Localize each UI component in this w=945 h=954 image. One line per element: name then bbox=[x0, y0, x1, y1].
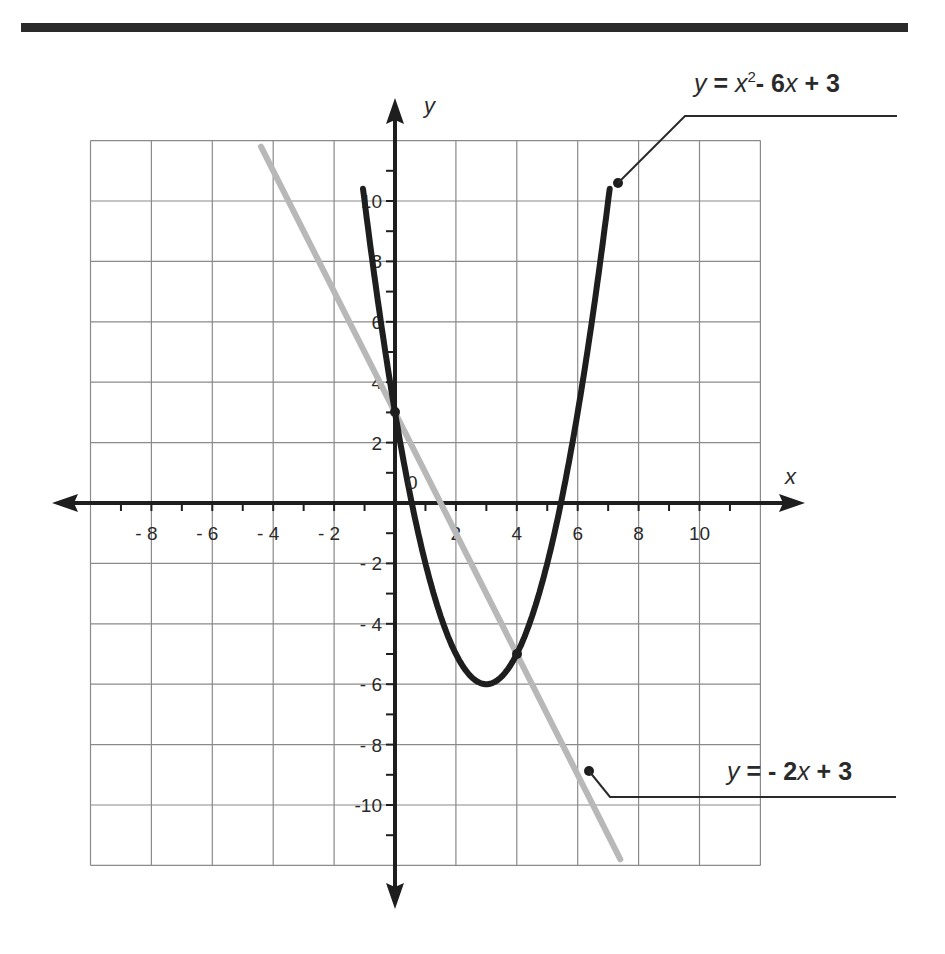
line-callout: y = - 2x + 3 bbox=[584, 757, 896, 797]
y-tick-label: - 4 bbox=[360, 614, 383, 635]
line-equation-label: y = - 2x + 3 bbox=[725, 757, 852, 785]
y-tick-label: -10 bbox=[355, 795, 382, 816]
x-tick-label: - 4 bbox=[257, 523, 280, 544]
x-tick-label: - 6 bbox=[196, 523, 218, 544]
x-tick-label: - 2 bbox=[318, 523, 340, 544]
x-tick-label: 10 bbox=[689, 523, 710, 544]
parabola-equation-label: y = x2- 6x + 3 bbox=[692, 68, 840, 97]
y-tick-label: - 6 bbox=[360, 674, 382, 695]
x-axis-label: x bbox=[784, 464, 797, 489]
x-tick-label: 4 bbox=[512, 523, 523, 544]
y-axis-label: y bbox=[422, 93, 437, 118]
y-tick-label: - 2 bbox=[360, 553, 382, 574]
intersection-point-4-minus5 bbox=[512, 649, 522, 659]
top-rule bbox=[21, 23, 908, 32]
y-tick-label: 2 bbox=[371, 433, 382, 454]
parabola-curve bbox=[363, 189, 610, 684]
intersection-point-0-3 bbox=[390, 407, 400, 417]
chart: - 8- 6- 4- 2246810108642- 2- 4- 6- 8-10 … bbox=[0, 0, 945, 954]
origin-label: 0 bbox=[407, 472, 418, 493]
x-axis bbox=[52, 494, 805, 512]
parabola-callout: y = x2- 6x + 3 bbox=[613, 68, 897, 188]
x-tick-label: 6 bbox=[572, 523, 583, 544]
callout-leader bbox=[618, 116, 897, 183]
y-tick-label: - 8 bbox=[360, 735, 382, 756]
x-tick-label: - 8 bbox=[135, 523, 157, 544]
x-tick-label: 8 bbox=[633, 523, 644, 544]
